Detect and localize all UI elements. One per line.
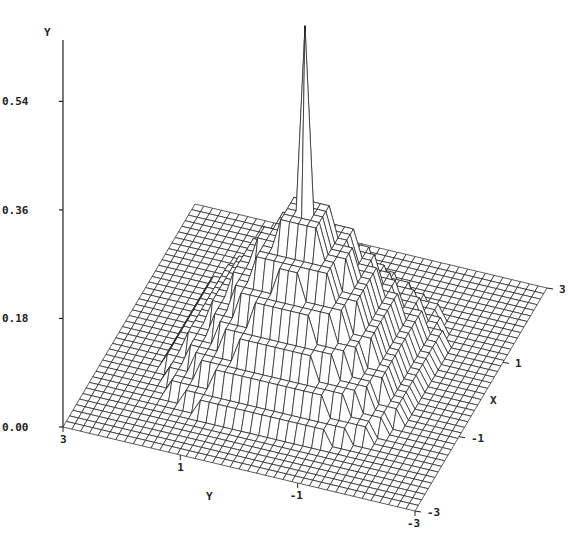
surface-plot: Y 0.000.180.360.54 31-1-3 Y -3-113 X xyxy=(0,0,568,548)
x-axis-tick-label: -1 xyxy=(471,432,485,445)
vertical-axis-tick-label: 0.36 xyxy=(2,204,29,217)
x-axis-tick-label: 3 xyxy=(559,283,566,296)
x-axis-tick xyxy=(415,511,421,512)
y-axis-title: Y xyxy=(206,490,213,503)
y-axis-tick-label: -3 xyxy=(407,517,420,530)
vertical-axis-ticks: 0.000.180.360.54 xyxy=(2,95,63,434)
vertical-axis-title: Y xyxy=(44,26,51,39)
x-axis-tick-label: 1 xyxy=(515,357,522,370)
y-axis-tick-label: 1 xyxy=(177,461,184,474)
x-axis-tick xyxy=(459,437,465,438)
x-axis-tick-label: -3 xyxy=(427,506,440,519)
x-axis-tick xyxy=(547,288,553,289)
x-axis-tick xyxy=(503,362,509,363)
x-axis-title: X xyxy=(490,394,497,407)
vertical-axis-tick-label: 0.00 xyxy=(2,421,29,434)
y-axis-tick-label: 3 xyxy=(60,433,67,446)
vertical-axis-tick-label: 0.54 xyxy=(2,95,29,108)
y-axis-tick-label: -1 xyxy=(290,489,304,502)
vertical-axis-tick-label: 0.18 xyxy=(2,312,29,325)
